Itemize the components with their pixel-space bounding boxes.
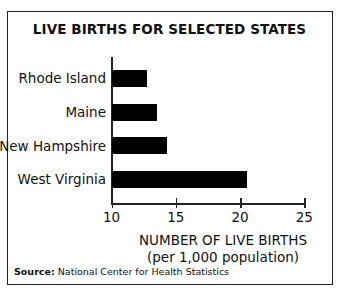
source-text: National Center for Health Statistics: [58, 266, 229, 277]
x-axis-line: [111, 203, 306, 205]
x-tick-label-15: 15: [161, 209, 191, 225]
x-axis-title: NUMBER OF LIVE BIRTHS (per 1,000 populat…: [128, 232, 318, 266]
x-axis-title-line2: (per 1,000 population): [128, 249, 318, 266]
category-label-maine: Maine: [65, 104, 106, 120]
bar-rhode-island: [112, 70, 147, 87]
x-tick-20: [240, 198, 242, 208]
category-label-new-hampshire: New Hampshire: [0, 138, 106, 154]
x-tick-10: [112, 198, 114, 208]
chart-title: LIVE BIRTHS FOR SELECTED STATES: [0, 21, 339, 37]
x-tick-15: [176, 198, 178, 208]
source-label: Source:: [14, 266, 55, 277]
x-tick-label-10: 10: [97, 209, 127, 225]
source-note: Source: National Center for Health Stati…: [14, 266, 229, 277]
x-tick-25: [304, 198, 306, 208]
category-label-rhode-island: Rhode Island: [18, 70, 106, 86]
bar-new-hampshire: [112, 137, 167, 154]
category-label-west-virginia: West Virginia: [18, 171, 106, 187]
bar-maine: [112, 104, 157, 121]
x-tick-label-20: 20: [225, 209, 255, 225]
bar-west-virginia: [112, 171, 247, 188]
x-axis-title-line1: NUMBER OF LIVE BIRTHS: [128, 232, 318, 249]
x-tick-label-25: 25: [289, 209, 319, 225]
